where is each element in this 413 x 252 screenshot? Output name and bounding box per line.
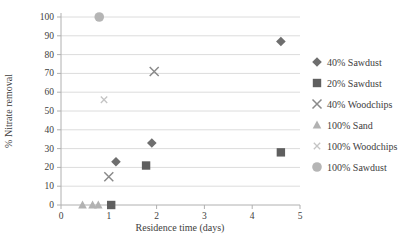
legend-label: 40% Woodchips (327, 99, 393, 110)
x-small-marker (101, 97, 107, 103)
square-marker (107, 201, 115, 209)
y-tick-label: 40 (45, 125, 55, 135)
x-tick-label: 4 (250, 211, 255, 221)
y-tick-label: 30 (45, 144, 55, 154)
square-marker (313, 79, 321, 87)
y-tick-label: 0 (49, 200, 54, 210)
x-tick-label: 0 (59, 211, 64, 221)
gridlines (61, 17, 300, 186)
circle-marker (312, 162, 322, 172)
legend-label: 40% Sawdust (327, 57, 382, 68)
legend-item: 40% Woodchips (313, 99, 393, 110)
series-40-sawdust (111, 37, 286, 167)
diamond-marker (147, 138, 157, 148)
x-marker (104, 172, 113, 181)
tick-labels: 0102030405060708090100012345 (40, 12, 303, 221)
y-tick-label: 100 (40, 12, 55, 22)
y-tick-label: 80 (45, 50, 55, 60)
nitrate-removal-chart: 0102030405060708090100012345 40% Sawdust… (0, 0, 413, 252)
legend-item: 40% Sawdust (312, 57, 382, 68)
x-tick-label: 5 (298, 211, 303, 221)
y-tick-label: 50 (45, 106, 55, 116)
series-100-sawdust (94, 12, 104, 22)
x-tick-label: 2 (154, 211, 159, 221)
legend-label: 100% Sawdust (327, 162, 387, 173)
square-marker (142, 161, 150, 169)
legend-label: 100% Woodchips (327, 141, 398, 152)
x-small-marker (314, 143, 320, 149)
y-axis-title: % Nitrate removal (3, 74, 14, 148)
series-100-woodchips (101, 97, 107, 103)
square-marker (277, 148, 285, 156)
legend-item: 20% Sawdust (313, 78, 382, 89)
triangle-marker (313, 121, 322, 129)
legend-item: 100% Woodchips (314, 141, 398, 152)
diamond-marker (276, 37, 286, 47)
legend-label: 20% Sawdust (327, 78, 382, 89)
y-tick-label: 60 (45, 87, 55, 97)
x-tick-label: 3 (202, 211, 207, 221)
diamond-marker (312, 57, 322, 67)
legend: 40% Sawdust20% Sawdust40% Woodchips100% … (312, 57, 397, 173)
y-tick-label: 70 (45, 68, 55, 78)
series-20-sawdust (107, 148, 285, 209)
nitrate-removal-figure: 0102030405060708090100012345 40% Sawdust… (0, 0, 413, 252)
circle-marker (94, 12, 104, 22)
series-40-woodchips (104, 67, 158, 181)
x-axis-title: Residence time (days) (136, 222, 225, 234)
y-tick-label: 20 (45, 162, 55, 172)
x-tick-label: 1 (106, 211, 111, 221)
legend-label: 100% Sand (327, 120, 373, 131)
legend-item: 100% Sand (313, 120, 373, 131)
x-marker (313, 100, 322, 109)
y-tick-label: 90 (45, 31, 55, 41)
x-marker (150, 67, 159, 76)
y-tick-label: 10 (45, 181, 55, 191)
legend-item: 100% Sawdust (312, 162, 387, 173)
diamond-marker (111, 157, 121, 167)
